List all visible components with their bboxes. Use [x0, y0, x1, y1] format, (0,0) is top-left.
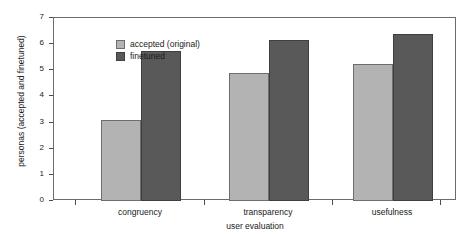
y-tick-label: 7 — [28, 13, 44, 21]
plot-area: accepted (original) finetuned — [53, 17, 456, 200]
y-tick-label: 4 — [28, 91, 44, 99]
bar-transparency-accepted — [229, 73, 269, 201]
x-tick-mark — [75, 200, 76, 205]
legend-item-finetuned: finetuned — [116, 51, 200, 62]
legend-swatch-finetuned-icon — [116, 52, 125, 61]
legend-label-finetuned: finetuned — [130, 52, 165, 61]
y-tick-label: 1 — [28, 170, 44, 178]
x-category-label-usefulness: usefulness — [372, 207, 413, 217]
bar-chart: personas (accepted and finetuned) 012345… — [0, 0, 472, 235]
x-category-label-transparency: transparency — [243, 207, 292, 217]
chart-legend: accepted (original) finetuned — [116, 39, 200, 63]
x-tick-mark — [204, 200, 205, 205]
x-tick-mark — [332, 200, 333, 205]
legend-swatch-accepted-icon — [116, 40, 125, 49]
legend-item-accepted: accepted (original) — [116, 39, 200, 50]
y-tick-label: 2 — [28, 144, 44, 152]
legend-label-accepted: accepted (original) — [130, 40, 200, 49]
y-axis-title: personas (accepted and finetuned) — [16, 16, 26, 186]
bar-congruency-finetuned — [141, 51, 181, 201]
y-tick-label: 0 — [28, 196, 44, 204]
y-tick-mark — [49, 200, 53, 201]
x-category-label-congruency: congruency — [118, 207, 162, 217]
x-axis-title: user evaluation — [226, 221, 284, 231]
bar-usefulness-accepted — [353, 64, 393, 201]
bar-usefulness-finetuned — [393, 34, 433, 201]
x-tick-mark — [440, 200, 441, 205]
bar-congruency-accepted — [101, 120, 141, 201]
y-tick-label: 3 — [28, 118, 44, 126]
bar-transparency-finetuned — [269, 40, 309, 201]
y-tick-label: 6 — [28, 39, 44, 47]
y-tick-label: 5 — [28, 65, 44, 73]
